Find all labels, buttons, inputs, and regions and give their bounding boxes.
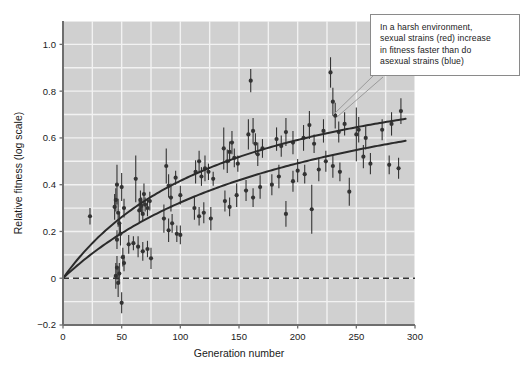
x-tick-label: 0	[60, 331, 65, 342]
x-axis-label: Generation number	[194, 347, 285, 359]
y-tick-label: 0.6	[43, 132, 56, 143]
data-point	[331, 100, 335, 104]
data-point	[141, 249, 145, 253]
data-point	[251, 129, 255, 133]
callout-note: In a harsh environment, sexual strains (…	[370, 14, 520, 76]
data-point	[197, 214, 201, 218]
data-point	[120, 301, 124, 305]
callout-line-3: in fitness faster than do	[380, 45, 511, 56]
data-point	[399, 109, 403, 113]
data-point	[228, 150, 232, 154]
data-point	[249, 79, 253, 83]
data-point	[310, 207, 314, 211]
data-point	[170, 221, 174, 225]
data-point	[223, 199, 227, 203]
data-point	[389, 122, 393, 126]
data-point	[122, 206, 126, 210]
data-point	[117, 271, 121, 275]
y-tick-label: 0.2	[43, 226, 56, 237]
callout-line-4: asexual strains (blue)	[380, 56, 511, 67]
y-axis-label: Relative fitness (log scale)	[12, 112, 24, 235]
data-point	[142, 192, 146, 196]
y-tick-label: −0.2	[37, 319, 56, 330]
callout-line-1: In a harsh environment,	[380, 22, 511, 33]
data-point	[291, 179, 295, 183]
data-point	[230, 141, 234, 145]
x-tick-label: 150	[231, 331, 247, 342]
y-tick-label: 0	[51, 273, 56, 284]
y-tick-label: 0.4	[43, 179, 56, 190]
y-tick-label: 0.8	[43, 86, 56, 97]
data-point	[338, 170, 342, 174]
data-point	[192, 206, 196, 210]
data-point	[307, 123, 311, 127]
data-point	[380, 128, 384, 132]
data-point	[256, 152, 260, 156]
data-point	[258, 185, 262, 189]
data-point	[178, 193, 182, 197]
data-point	[162, 217, 166, 221]
x-tick-label: 200	[290, 331, 306, 342]
data-point	[364, 136, 368, 140]
data-point	[331, 164, 335, 168]
data-point	[199, 174, 203, 178]
data-point	[296, 169, 300, 173]
data-point	[274, 137, 278, 141]
x-tick-label: 300	[407, 331, 423, 342]
y-tick-label: 1.0	[43, 39, 56, 50]
data-point	[343, 122, 347, 126]
data-point	[178, 233, 182, 237]
data-point	[236, 162, 240, 166]
data-point	[396, 166, 400, 170]
x-tick-label: 100	[172, 331, 188, 342]
data-point	[270, 183, 274, 187]
data-point	[120, 185, 124, 189]
x-tick-label: 50	[116, 331, 127, 342]
plot-area	[63, 21, 415, 325]
data-point	[253, 142, 257, 146]
data-point	[202, 211, 206, 215]
data-point	[209, 217, 213, 221]
data-point	[174, 176, 178, 180]
data-point	[361, 155, 365, 159]
data-point	[136, 245, 140, 249]
data-point	[145, 206, 149, 210]
data-point	[303, 172, 307, 176]
data-point	[164, 164, 168, 168]
data-point	[284, 130, 288, 134]
data-point	[251, 195, 255, 199]
data-point	[368, 162, 372, 166]
data-point	[222, 146, 226, 150]
data-point	[284, 212, 288, 216]
data-point	[206, 170, 210, 174]
data-point	[134, 177, 138, 181]
data-point	[143, 202, 147, 206]
data-point	[235, 193, 239, 197]
data-point	[244, 188, 248, 192]
data-point	[169, 195, 173, 199]
data-point	[312, 142, 316, 146]
data-point	[127, 242, 131, 246]
data-point	[354, 132, 358, 136]
data-point	[324, 159, 328, 163]
data-point	[387, 163, 391, 167]
data-point	[145, 247, 149, 251]
data-point	[131, 241, 135, 245]
data-point	[88, 214, 92, 218]
data-point	[357, 128, 361, 132]
data-point	[141, 212, 145, 216]
data-point	[277, 174, 281, 178]
data-point	[115, 183, 119, 187]
data-point	[328, 70, 332, 74]
callout-line-2: sexual strains (red) increase	[380, 33, 511, 44]
data-point	[122, 261, 126, 265]
data-point	[167, 228, 171, 232]
x-tick-label: 250	[348, 331, 364, 342]
data-point	[347, 190, 351, 194]
data-point	[149, 256, 153, 260]
data-point	[246, 132, 250, 136]
data-point	[317, 167, 321, 171]
data-point	[228, 205, 232, 209]
data-point	[211, 177, 215, 181]
data-point	[197, 159, 201, 163]
